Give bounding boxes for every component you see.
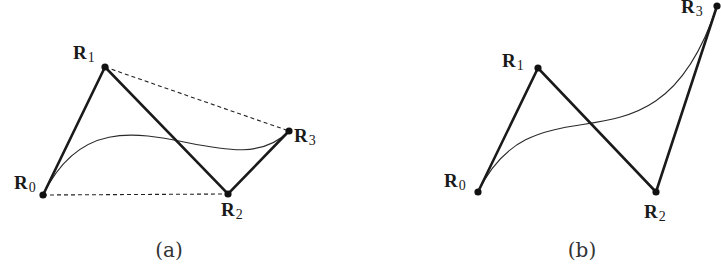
control-point-r0 — [39, 191, 46, 198]
caption-a: (a) — [155, 238, 183, 262]
label-r0: R0 — [14, 172, 36, 195]
control-point-r1 — [534, 64, 541, 71]
bezier-curve — [478, 6, 717, 192]
control-point-r1 — [101, 63, 108, 70]
control-point-r3 — [285, 127, 292, 134]
control-point-r0 — [474, 188, 481, 195]
label-r0: R0 — [444, 170, 466, 193]
label-r2: R2 — [221, 199, 243, 222]
label-r3: R3 — [294, 125, 316, 148]
label-r1: R1 — [73, 42, 95, 65]
label-r3: R3 — [681, 0, 703, 19]
control-point-r2 — [652, 188, 659, 195]
control-point-r2 — [224, 190, 231, 197]
caption-b: (b) — [568, 238, 596, 262]
dashed-line-r1-r3 — [105, 67, 289, 131]
dashed-line-r0-r2 — [43, 194, 228, 195]
control-polygon — [478, 6, 717, 192]
control-polygon — [43, 67, 289, 195]
panel-a: R0 R1 R2 R3 (a) — [14, 42, 316, 262]
control-point-r3 — [713, 2, 720, 9]
label-r1: R1 — [502, 50, 524, 73]
label-r2: R2 — [644, 201, 666, 224]
bezier-curve — [43, 131, 289, 195]
bezier-figure: R0 R1 R2 R3 (a) R0 R1 R2 R3 (b — [0, 0, 721, 280]
panel-b: R0 R1 R2 R3 (b) — [444, 0, 721, 262]
